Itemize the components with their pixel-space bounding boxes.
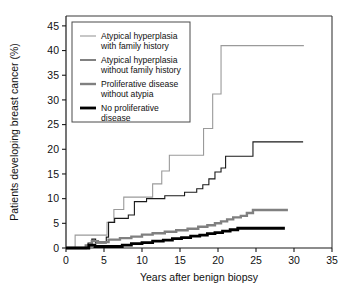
legend-label-0: Atypical hyperplasia xyxy=(101,31,178,41)
x-tick-label: 0 xyxy=(63,254,69,266)
x-tick-label: 35 xyxy=(326,254,338,266)
x-tick-label: 10 xyxy=(136,254,148,266)
legend-label-1: Atypical hyperplasia xyxy=(101,55,178,65)
x-tick-label: 30 xyxy=(288,254,300,266)
y-tick-label: 30 xyxy=(47,94,59,106)
y-tick-label: 20 xyxy=(47,143,59,155)
x-tick-label: 25 xyxy=(250,254,262,266)
y-tick-label: 45 xyxy=(47,20,59,32)
x-tick-label: 15 xyxy=(174,254,186,266)
y-tick-label: 15 xyxy=(47,168,59,180)
chart-container: 051015202530354045 05101520253035 Years … xyxy=(0,0,346,296)
legend-label-1-line2: without family history xyxy=(100,65,181,75)
legend-label-3: No proliferative xyxy=(101,103,159,113)
x-axis-ticks: 05101520253035 xyxy=(63,248,338,266)
legend-label-0-line2: with family history xyxy=(100,41,170,51)
x-tick-label: 20 xyxy=(212,254,224,266)
legend-label-3-line2: disease xyxy=(101,113,131,123)
y-tick-label: 25 xyxy=(47,118,59,130)
y-tick-label: 10 xyxy=(47,192,59,204)
y-tick-label: 35 xyxy=(47,69,59,81)
y-tick-label: 0 xyxy=(53,242,59,254)
series-line-1 xyxy=(66,142,303,248)
y-tick-label: 40 xyxy=(47,44,59,56)
y-tick-label: 5 xyxy=(53,217,59,229)
y-axis-title: Patients developing breast cancer (%) xyxy=(8,43,20,220)
x-axis-title: Years after benign biopsy xyxy=(140,271,259,283)
legend: Atypical hyperplasiawith family historyA… xyxy=(72,22,190,123)
x-tick-label: 5 xyxy=(101,254,107,266)
legend-label-2: Proliferative disease xyxy=(101,79,179,89)
legend-label-2-line2: without atypia xyxy=(100,89,154,99)
kaplan-meier-chart: 051015202530354045 05101520253035 Years … xyxy=(0,0,346,296)
y-axis-ticks: 051015202530354045 xyxy=(47,20,66,254)
